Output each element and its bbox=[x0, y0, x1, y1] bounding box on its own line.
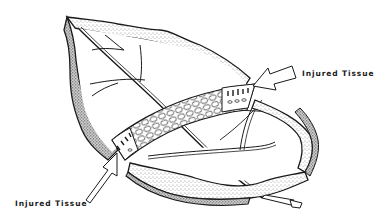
injured-tissue-right bbox=[222, 84, 255, 112]
petiole bbox=[262, 195, 302, 208]
arrow-upper-right bbox=[253, 66, 296, 90]
label-injured-tissue-upper: Injured Tissue bbox=[302, 69, 374, 78]
label-injured-tissue-lower: Injured Tissue bbox=[15, 199, 87, 208]
arrow-lower-left bbox=[86, 153, 117, 203]
leaf-injury-diagram: Injured Tissue Injured Tissue bbox=[0, 0, 385, 223]
